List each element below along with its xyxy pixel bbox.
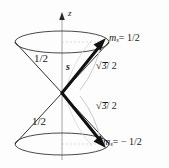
spin-down-vector-shaft <box>62 93 99 139</box>
spin-down-state-label: ms= − 1/2 <box>103 137 142 148</box>
z-axis-label: z <box>68 9 72 18</box>
lower-z-component-label: 1/2 <box>32 116 46 127</box>
upper-radical-group: √3 <box>96 61 107 71</box>
upper-radical-bar <box>103 62 109 63</box>
spin-cone-figure: z s 1/2 1/2 ms= 1/2 ms= − 1/2 √3/ 2 √3/ … <box>0 0 169 168</box>
spin-down-state-value: = − 1/2 <box>113 136 142 147</box>
upper-z-component-label: 1/2 <box>34 53 48 64</box>
upper-cone-left-slant <box>15 42 62 93</box>
lower-radical-group: √3 <box>96 101 107 111</box>
upper-radical-denominator: / 2 <box>107 60 117 71</box>
lower-radical-bar <box>103 102 109 103</box>
spin-vector-label: s <box>66 62 70 72</box>
spin-up-vector-arrowhead <box>94 38 107 51</box>
figure-canvas <box>0 0 169 168</box>
spin-up-state-label: ms= 1/2 <box>109 33 140 44</box>
lower-radical-denominator: / 2 <box>107 100 117 111</box>
spin-up-state-value: = 1/2 <box>119 32 140 43</box>
z-axis-arrowhead <box>59 12 65 20</box>
lower-transverse-component-label: √3/ 2 <box>96 101 117 111</box>
upper-transverse-component-label: √3/ 2 <box>96 61 117 71</box>
